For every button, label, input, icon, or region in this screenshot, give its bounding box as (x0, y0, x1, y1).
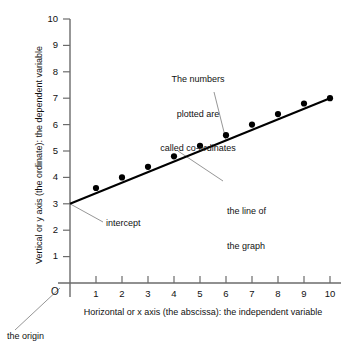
x-tick-label-2: 2 (112, 288, 132, 299)
origin-label: O (51, 286, 59, 297)
x-tick-label-7: 7 (242, 288, 262, 299)
annotation-coordinates-line3: called co-ordinates (128, 143, 268, 155)
x-tick-label-1: 1 (86, 288, 106, 299)
x-tick-label-5: 5 (190, 288, 210, 299)
data-point (275, 111, 281, 117)
annotation-coordinates-line2: plotted are (128, 109, 268, 121)
y-tick-marks (63, 19, 70, 257)
x-tick-label-3: 3 (138, 288, 158, 299)
x-tick-label-8: 8 (268, 288, 288, 299)
x-tick-label-4: 4 (164, 288, 184, 299)
x-tick-label-9: 9 (294, 288, 314, 299)
chart-figure: 10 9 8 7 6 5 4 3 2 1 1 2 3 4 5 6 7 8 9 1… (0, 0, 350, 354)
data-point (93, 185, 99, 191)
annotation-line-of-graph: the line of the graph (227, 183, 317, 275)
x-tick-label-10: 10 (320, 288, 340, 299)
y-tick-label-10: 10 (38, 13, 58, 24)
data-point (119, 174, 125, 180)
annotation-coordinates-line1: The numbers (128, 74, 268, 86)
data-point (301, 100, 307, 106)
annotation-line-of-graph-line2: the graph (227, 241, 317, 253)
x-tick-marks (96, 276, 330, 283)
x-axis-title: Horizontal or x axis (the abscissa): the… (58, 307, 348, 317)
annotation-origin: the origin (7, 331, 97, 343)
annotation-coordinates: The numbers plotted are called co-ordina… (128, 51, 268, 178)
leader-intercept (70, 204, 103, 222)
annotation-line-of-graph-line1: the line of (227, 206, 317, 218)
annotation-intercept: intercept (106, 218, 186, 230)
data-point (327, 95, 333, 101)
x-tick-label-6: 6 (216, 288, 236, 299)
y-axis-title: Vertical or y axis (the ordinate): the d… (34, 30, 44, 280)
